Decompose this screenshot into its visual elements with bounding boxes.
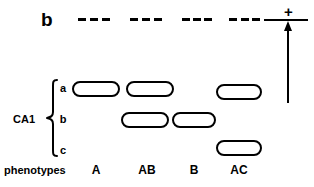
- origin-dash: [154, 18, 162, 21]
- row-label-a: a: [58, 83, 68, 94]
- lane-label-ab: AB: [125, 164, 169, 176]
- band-lane-a-row-a: [72, 81, 120, 97]
- origin-dash: [252, 18, 260, 21]
- origin-dash: [241, 18, 249, 21]
- origin-dashes-lane-ac: [229, 18, 260, 22]
- allele-brace: [45, 78, 59, 162]
- origin-dash: [229, 18, 237, 21]
- migration-arrow-head: [284, 21, 292, 31]
- lane-label-b: B: [174, 164, 214, 176]
- anode-plus-label: +: [284, 4, 293, 19]
- origin-dashes-lane-a: [78, 18, 110, 22]
- band-lane-ac-row-a: [216, 84, 262, 100]
- row-label-c: c: [58, 145, 68, 156]
- origin-dash: [130, 18, 138, 21]
- migration-arrow-shaft: [287, 28, 289, 103]
- origin-dash: [142, 18, 150, 21]
- origin-dash: [102, 18, 110, 21]
- origin-dash: [182, 18, 190, 21]
- band-lane-ab-row-a: [126, 81, 174, 97]
- panel-label: b: [41, 10, 53, 29]
- phenotypes-axis-label: phenotypes: [4, 165, 66, 176]
- band-lane-ab-row-b: [121, 112, 169, 128]
- band-lane-b-row-b: [172, 112, 216, 128]
- origin-dashes-lane-ab: [130, 18, 162, 22]
- origin-dash: [193, 18, 201, 21]
- figure-panel-b: b + CA1 a b c: [0, 0, 314, 187]
- lane-label-a: A: [76, 164, 116, 176]
- origin-dash: [78, 18, 86, 21]
- band-lane-ac-row-c: [216, 140, 262, 156]
- origin-dash: [90, 18, 98, 21]
- lane-label-ac: AC: [218, 164, 260, 176]
- locus-label: CA1: [13, 114, 35, 125]
- origin-dash: [204, 18, 212, 21]
- origin-dashes-lane-b: [182, 18, 212, 22]
- row-label-b: b: [58, 114, 68, 125]
